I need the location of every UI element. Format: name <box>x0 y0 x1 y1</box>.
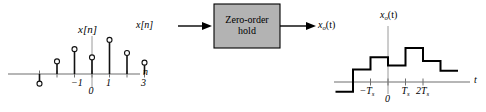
stem-marker <box>107 37 112 42</box>
staircase-waveform <box>336 48 459 92</box>
stem-marker <box>90 55 95 60</box>
left-stem-plot-canvas <box>0 0 160 112</box>
zero-order-hold-label: Zero-order hold <box>214 14 280 36</box>
t-tick-label-subscript: s <box>372 90 375 97</box>
input-arrow-head <box>202 22 212 30</box>
x-tick-label: 0 <box>89 86 94 96</box>
t-tick-label-base: 2T <box>416 85 427 96</box>
right-plot-y-axis-label: xo(t) <box>380 10 397 22</box>
right-y-label-tail: (t) <box>388 9 397 20</box>
t-tick-label: 0 <box>385 94 390 104</box>
left-plot-x-axis-label: n <box>143 67 148 77</box>
t-tick-label-base: −T <box>360 85 372 96</box>
t-tick-label: 2Ts <box>416 86 429 98</box>
block-label-line-2: hold <box>214 25 280 36</box>
figure-zero-order-hold: x[n] n −1013 x[n] Zero-order hold xo(t) … <box>0 0 486 112</box>
t-tick-label: −Ts <box>360 86 375 98</box>
t-tick-label-base: 0 <box>385 93 390 104</box>
stem-marker <box>125 51 130 56</box>
t-tick-label-subscript: s <box>407 90 410 97</box>
block-input-label: x[n] <box>136 20 153 30</box>
left-plot-y-axis-label: x[n] <box>78 24 97 35</box>
t-tick-label: Ts <box>402 86 410 98</box>
x-tick-label: 1 <box>106 78 111 88</box>
x-tick-label: −1 <box>71 78 83 88</box>
block-label-line-1: Zero-order <box>214 14 280 25</box>
stem-marker <box>55 59 60 64</box>
x-tick-label: 3 <box>141 78 146 88</box>
stem-marker <box>142 60 147 65</box>
output-arrow-head <box>306 22 316 30</box>
right-axis-group <box>334 26 470 94</box>
stem-marker <box>72 47 77 52</box>
stem-marker <box>37 81 42 86</box>
right-plot-x-axis-label: t <box>474 75 477 85</box>
t-tick-label-subscript: s <box>427 90 430 97</box>
